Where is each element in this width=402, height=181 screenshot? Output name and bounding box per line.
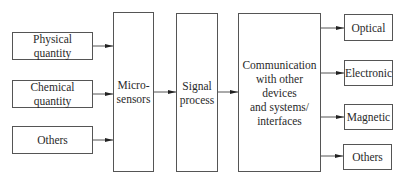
output-label: Optical	[352, 21, 386, 35]
output-optical: Optical	[344, 14, 393, 41]
stage-label: Micro- sensors	[117, 78, 151, 106]
stage-label: Signal process	[180, 79, 215, 107]
stage-signal-process: Signal process	[176, 13, 218, 172]
output-electronic: Electronic	[344, 60, 393, 86]
stage-label: Communication with other devices and sys…	[239, 58, 320, 128]
stage-micro-sensors: Micro- sensors	[113, 12, 154, 172]
output-magnetic: Magnetic	[344, 104, 393, 130]
output-label: Magnetic	[347, 110, 390, 124]
input-chemical-quantity: Chemical quantity	[12, 80, 93, 108]
output-label: Electronic	[345, 66, 392, 80]
input-physical-quantity: Physical quantity	[12, 32, 93, 60]
input-others: Others	[12, 126, 93, 154]
input-label: Physical quantity	[13, 32, 92, 60]
stage-communication: Communication with other devices and sys…	[238, 13, 321, 172]
output-others: Others	[343, 144, 392, 170]
input-label: Others	[37, 133, 68, 147]
output-label: Others	[352, 150, 383, 164]
input-label: Chemical quantity	[13, 80, 92, 108]
